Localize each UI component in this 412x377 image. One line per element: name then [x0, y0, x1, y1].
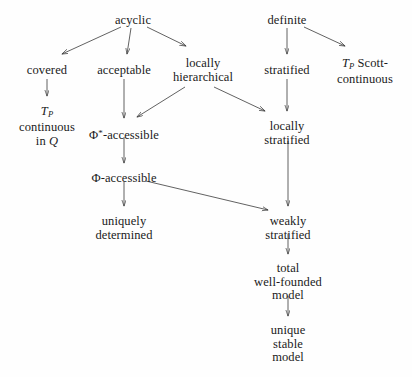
- edge-acyclic-acceptable: [127, 28, 131, 54]
- edge-phi-weakly: [146, 181, 268, 210]
- node-locally_hierarchical: locallyhierarchical: [173, 57, 233, 84]
- node-label-line: continuous: [19, 121, 75, 135]
- node-unique_stable_model: uniquestablemodel: [271, 324, 306, 365]
- node-label-line: total: [254, 262, 322, 276]
- node-uniquely_determined: uniquelydetermined: [95, 215, 152, 242]
- node-label-line: definite: [268, 14, 307, 28]
- node-acyclic: acyclic: [115, 14, 151, 28]
- node-tp_scott_continuous: TP Scott-continuous: [337, 57, 393, 87]
- node-definite: definite: [268, 14, 307, 28]
- node-label-line: acceptable: [97, 64, 151, 78]
- node-label-line: stratified: [265, 229, 310, 243]
- node-tp_continuous_in_q: TPcontinuousin Q: [19, 105, 75, 148]
- node-label-line: locally: [264, 120, 309, 134]
- cropped-text-artifact: .....: [0, 0, 412, 7]
- node-locally_stratified: locallystratified: [264, 120, 309, 147]
- node-acceptable: acceptable: [97, 64, 151, 78]
- node-label-line: Φ*-accessible: [89, 127, 159, 143]
- node-label-line: weakly: [265, 215, 310, 229]
- edge-lochier-phistar: [137, 87, 185, 117]
- node-label-line: stable: [271, 338, 306, 352]
- node-label-line: in Q: [19, 135, 75, 149]
- node-stratified: stratified: [264, 64, 309, 78]
- node-label-line: model: [254, 289, 322, 303]
- node-label-line: stratified: [264, 134, 309, 148]
- diagram-canvas: ..... acyclicdefinitecoveredacceptablelo…: [0, 0, 412, 377]
- edge-acyclic-locally-hierarchical: [147, 27, 186, 46]
- node-label-line: well-founded: [254, 276, 322, 290]
- node-label-line: model: [271, 351, 306, 365]
- node-label-line: TP: [19, 105, 75, 121]
- node-phi_star_accessible: Φ*-accessible: [89, 127, 159, 143]
- node-phi_accessible: Φ-accessible: [91, 172, 156, 186]
- node-label-line: hierarchical: [173, 71, 233, 85]
- node-label-line: covered: [27, 64, 67, 78]
- node-label-line: continuous: [337, 73, 393, 87]
- node-label-line: determined: [95, 229, 152, 243]
- node-covered: covered: [27, 64, 67, 78]
- node-label-line: acyclic: [115, 14, 151, 28]
- edge-definite-tp-scott: [304, 27, 345, 46]
- node-label-line: unique: [271, 324, 306, 338]
- node-label-line: TP Scott-: [337, 57, 393, 73]
- node-total_wf_model: totalwell-foundedmodel: [254, 262, 322, 303]
- node-label-line: stratified: [264, 64, 309, 78]
- node-weakly_stratified: weaklystratified: [265, 215, 310, 242]
- node-label-line: locally: [173, 57, 233, 71]
- node-label-line: Φ-accessible: [91, 172, 156, 186]
- edge-acyclic-covered: [62, 27, 121, 54]
- node-label-line: uniquely: [95, 215, 152, 229]
- edge-lochier-locstrat: [214, 87, 265, 111]
